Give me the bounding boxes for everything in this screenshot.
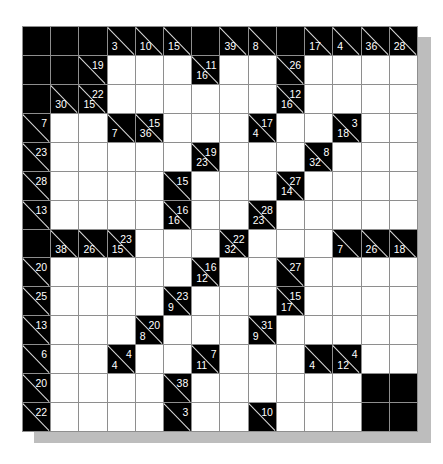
entry-cell[interactable]	[390, 114, 417, 142]
entry-cell[interactable]	[220, 114, 247, 142]
entry-cell[interactable]	[192, 172, 219, 200]
entry-cell[interactable]	[333, 143, 360, 171]
entry-cell[interactable]	[362, 56, 389, 84]
entry-cell[interactable]	[220, 172, 247, 200]
entry-cell[interactable]	[108, 143, 135, 171]
entry-cell[interactable]	[305, 258, 332, 286]
entry-cell[interactable]	[164, 143, 191, 171]
entry-cell[interactable]	[362, 258, 389, 286]
entry-cell[interactable]	[220, 85, 247, 113]
entry-cell[interactable]	[249, 85, 276, 113]
entry-cell[interactable]	[333, 172, 360, 200]
entry-cell[interactable]	[220, 201, 247, 229]
entry-cell[interactable]	[362, 345, 389, 373]
entry-cell[interactable]	[51, 143, 78, 171]
entry-cell[interactable]	[305, 56, 332, 84]
entry-cell[interactable]	[220, 403, 247, 431]
entry-cell[interactable]	[390, 85, 417, 113]
entry-cell[interactable]	[164, 345, 191, 373]
entry-cell[interactable]	[362, 172, 389, 200]
entry-cell[interactable]	[79, 172, 106, 200]
entry-cell[interactable]	[277, 403, 304, 431]
entry-cell[interactable]	[277, 143, 304, 171]
entry-cell[interactable]	[362, 287, 389, 315]
entry-cell[interactable]	[220, 56, 247, 84]
entry-cell[interactable]	[333, 56, 360, 84]
entry-cell[interactable]	[108, 258, 135, 286]
entry-cell[interactable]	[51, 403, 78, 431]
entry-cell[interactable]	[249, 143, 276, 171]
entry-cell[interactable]	[51, 287, 78, 315]
entry-cell[interactable]	[192, 114, 219, 142]
entry-cell[interactable]	[108, 201, 135, 229]
entry-cell[interactable]	[79, 143, 106, 171]
entry-cell[interactable]	[192, 316, 219, 344]
entry-cell[interactable]	[79, 258, 106, 286]
entry-cell[interactable]	[79, 345, 106, 373]
entry-cell[interactable]	[79, 374, 106, 402]
entry-cell[interactable]	[164, 114, 191, 142]
entry-cell[interactable]	[277, 316, 304, 344]
entry-cell[interactable]	[333, 201, 360, 229]
entry-cell[interactable]	[164, 316, 191, 344]
entry-cell[interactable]	[220, 374, 247, 402]
entry-cell[interactable]	[108, 172, 135, 200]
entry-cell[interactable]	[277, 230, 304, 258]
entry-cell[interactable]	[333, 316, 360, 344]
entry-cell[interactable]	[79, 201, 106, 229]
entry-cell[interactable]	[362, 114, 389, 142]
entry-cell[interactable]	[362, 85, 389, 113]
entry-cell[interactable]	[333, 403, 360, 431]
entry-cell[interactable]	[192, 287, 219, 315]
entry-cell[interactable]	[51, 172, 78, 200]
entry-cell[interactable]	[333, 258, 360, 286]
entry-cell[interactable]	[362, 143, 389, 171]
entry-cell[interactable]	[136, 230, 163, 258]
entry-cell[interactable]	[305, 114, 332, 142]
entry-cell[interactable]	[136, 201, 163, 229]
entry-cell[interactable]	[277, 374, 304, 402]
entry-cell[interactable]	[108, 403, 135, 431]
entry-cell[interactable]	[136, 403, 163, 431]
entry-cell[interactable]	[305, 403, 332, 431]
entry-cell[interactable]	[277, 345, 304, 373]
entry-cell[interactable]	[79, 316, 106, 344]
entry-cell[interactable]	[108, 85, 135, 113]
entry-cell[interactable]	[249, 374, 276, 402]
entry-cell[interactable]	[164, 258, 191, 286]
entry-cell[interactable]	[277, 114, 304, 142]
entry-cell[interactable]	[249, 230, 276, 258]
entry-cell[interactable]	[249, 56, 276, 84]
entry-cell[interactable]	[333, 287, 360, 315]
entry-cell[interactable]	[79, 287, 106, 315]
entry-cell[interactable]	[51, 374, 78, 402]
entry-cell[interactable]	[164, 230, 191, 258]
entry-cell[interactable]	[136, 143, 163, 171]
entry-cell[interactable]	[192, 85, 219, 113]
entry-cell[interactable]	[305, 316, 332, 344]
entry-cell[interactable]	[108, 374, 135, 402]
entry-cell[interactable]	[390, 172, 417, 200]
entry-cell[interactable]	[305, 172, 332, 200]
entry-cell[interactable]	[164, 56, 191, 84]
entry-cell[interactable]	[51, 114, 78, 142]
entry-cell[interactable]	[305, 85, 332, 113]
entry-cell[interactable]	[220, 258, 247, 286]
entry-cell[interactable]	[390, 56, 417, 84]
entry-cell[interactable]	[362, 316, 389, 344]
entry-cell[interactable]	[51, 258, 78, 286]
entry-cell[interactable]	[390, 201, 417, 229]
entry-cell[interactable]	[220, 345, 247, 373]
entry-cell[interactable]	[51, 201, 78, 229]
entry-cell[interactable]	[79, 114, 106, 142]
entry-cell[interactable]	[108, 316, 135, 344]
entry-cell[interactable]	[305, 230, 332, 258]
entry-cell[interactable]	[362, 201, 389, 229]
entry-cell[interactable]	[192, 201, 219, 229]
entry-cell[interactable]	[136, 287, 163, 315]
entry-cell[interactable]	[390, 258, 417, 286]
entry-cell[interactable]	[192, 403, 219, 431]
entry-cell[interactable]	[220, 143, 247, 171]
entry-cell[interactable]	[249, 287, 276, 315]
entry-cell[interactable]	[136, 56, 163, 84]
